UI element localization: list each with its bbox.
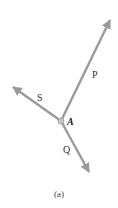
figure-caption: (a) (54, 189, 64, 199)
point-a-marker (58, 118, 64, 124)
vector-p-arrow (61, 20, 110, 121)
vector-q-label: Q (63, 144, 71, 155)
vector-p-label: P (92, 69, 98, 80)
point-a-label: A (66, 116, 74, 127)
vector-diagram: P S Q A (a) (0, 0, 118, 208)
vector-s-label: S (37, 92, 43, 103)
